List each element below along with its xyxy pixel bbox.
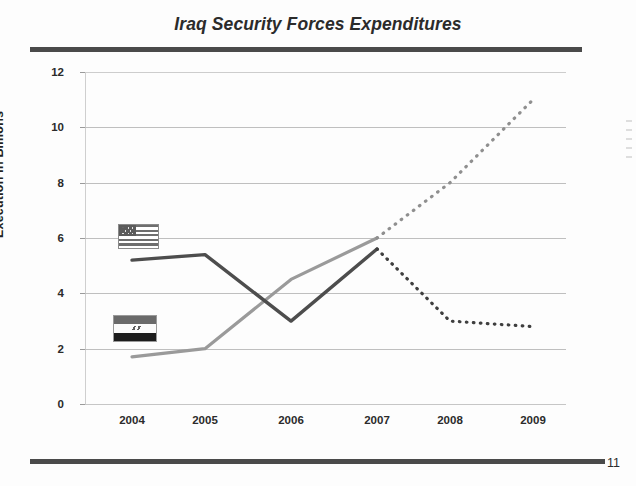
us-flag-icon <box>118 224 159 249</box>
x-tick-2006: 2006 <box>256 414 326 426</box>
iraq-flag-band-bottom <box>114 333 156 341</box>
series-us-projected <box>377 249 533 327</box>
iraq-flag-band-middle <box>114 324 156 332</box>
x-tick-2007: 2007 <box>342 414 412 426</box>
series-layer <box>0 0 636 440</box>
slide-canvas: Iraq Security Forces Expenditures Execut… <box>0 0 636 486</box>
chart: Execution in Billions 0 2 4 6 8 10 12 <box>0 0 636 440</box>
series-iraq-projected <box>377 100 533 238</box>
x-tick-2005: 2005 <box>170 414 240 426</box>
page-number: 11 <box>607 456 620 470</box>
iraq-flag-band-top <box>114 316 156 324</box>
x-tick-2008: 2008 <box>415 414 485 426</box>
iraq-flag-icon <box>113 315 157 342</box>
us-flag-canton <box>119 225 136 236</box>
x-tick-2009: 2009 <box>498 414 568 426</box>
footer-divider <box>30 459 605 464</box>
x-tick-2004: 2004 <box>97 414 167 426</box>
